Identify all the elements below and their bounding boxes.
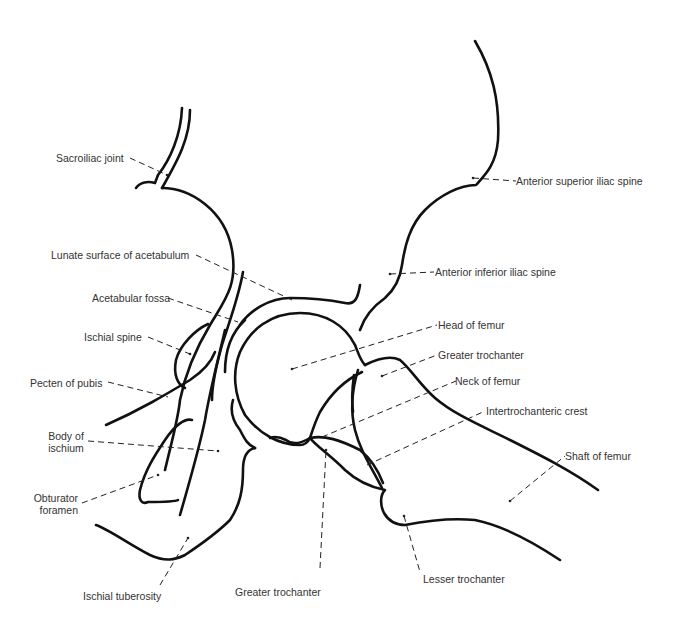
label-intertrochanteric-crest: Intertrochanteric crest bbox=[486, 405, 588, 417]
label-neck-of-femur: Neck of femur bbox=[455, 375, 520, 387]
label-lunate-surface: Lunate surface of acetabulum bbox=[51, 249, 189, 261]
label-shaft-of-femur: Shaft of femur bbox=[565, 450, 631, 462]
label-greater-trochanter-bottom: Greater trochanter bbox=[235, 586, 321, 598]
label-acetabular-fossa: Acetabular fossa bbox=[92, 292, 170, 304]
label-pecten-of-pubis: Pecten of pubis bbox=[30, 377, 102, 389]
label-anterior-inferior-iliac-spine: Anterior inferior iliac spine bbox=[435, 266, 556, 278]
label-lesser-trochanter: Lesser trochanter bbox=[423, 573, 505, 585]
label-ischial-spine: Ischial spine bbox=[84, 331, 142, 343]
label-greater-trochanter-top: Greater trochanter bbox=[438, 349, 524, 361]
leader-lines bbox=[0, 0, 677, 635]
label-obturator-foramen-line2: foramen bbox=[20, 504, 78, 516]
label-head-of-femur: Head of femur bbox=[438, 319, 505, 331]
label-body-of-ischium-line1: Body of bbox=[46, 430, 86, 442]
label-anterior-superior-iliac-spine: Anterior superior iliac spine bbox=[516, 175, 643, 187]
label-obturator-foramen-line1: Obturator bbox=[20, 492, 78, 504]
label-body-of-ischium-line2: ischium bbox=[46, 442, 86, 454]
hip-joint-diagram: Sacroiliac joint Lunate surface of aceta… bbox=[0, 0, 677, 635]
label-ischial-tuberosity: Ischial tuberosity bbox=[83, 590, 161, 602]
label-sacroiliac-joint: Sacroiliac joint bbox=[56, 152, 124, 164]
